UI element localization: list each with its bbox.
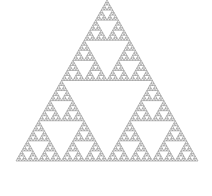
sierpinski-triangle <box>0 0 212 196</box>
background <box>0 0 212 196</box>
